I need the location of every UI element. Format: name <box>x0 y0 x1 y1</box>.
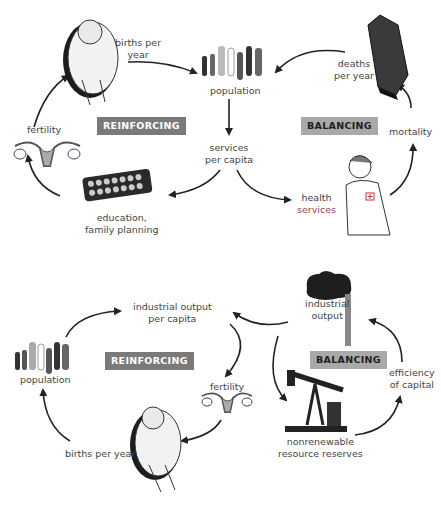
deaths-line1: deaths <box>334 58 374 70</box>
node-industrial-output: industrial output <box>305 298 349 322</box>
node-nonrenewable-resource-reserves: nonrenewable resource reserves <box>278 436 363 460</box>
io-line1: industrial <box>305 298 349 310</box>
uterus-icon <box>202 393 252 412</box>
iopc-line1: industrial output <box>133 301 212 313</box>
resources-line2: resource reserves <box>278 448 363 460</box>
education-line2: family planning <box>85 224 159 236</box>
node-education-family-planning: education, family planning <box>85 212 159 236</box>
efficiency-line2: of capital <box>389 379 435 391</box>
balancing-badge: BALANCING <box>310 351 387 369</box>
oil-pump-icon <box>285 370 347 432</box>
node-population: population <box>210 85 261 97</box>
births-line1: births per <box>115 37 161 49</box>
resources-line1: nonrenewable <box>278 436 363 448</box>
node-deaths-per-year: deaths per year <box>334 58 374 82</box>
education-line1: education, <box>85 212 159 224</box>
node-births-per-year: births per year <box>115 37 161 61</box>
reinforcing-badge: REINFORCING <box>105 352 194 370</box>
io-line2: output <box>305 310 349 322</box>
coffin-icon <box>368 15 408 100</box>
node-fertility: fertility <box>210 381 244 393</box>
reinforcing-badge: REINFORCING <box>97 117 186 135</box>
doctor-icon <box>346 155 390 235</box>
services-line1: services <box>205 142 253 154</box>
node-services-per-capita: services per capita <box>205 142 253 166</box>
iopc-line2: per capita <box>133 313 212 325</box>
node-industrial-output-per-capita: industrial output per capita <box>133 301 212 325</box>
births-line2: year <box>115 49 161 61</box>
population-icon <box>15 342 69 374</box>
health-line2: services <box>297 204 336 216</box>
node-health-services: health services <box>297 192 336 216</box>
services-line2: per capita <box>205 154 253 166</box>
balancing-badge: BALANCING <box>301 117 378 135</box>
efficiency-line1: efficiency <box>389 367 435 379</box>
node-population: population <box>20 374 71 386</box>
illustrations-layer <box>0 0 441 507</box>
baby-icon <box>63 20 118 105</box>
node-fertility: fertility <box>27 124 61 136</box>
baby-icon <box>130 407 181 492</box>
health-line1: health <box>297 192 336 204</box>
node-mortality: mortality <box>389 126 432 138</box>
pill-pack-icon <box>82 169 153 202</box>
uterus-icon <box>14 142 80 166</box>
deaths-line2: per year <box>334 70 374 82</box>
node-efficiency-of-capital: efficiency of capital <box>389 367 435 391</box>
population-icon <box>202 46 262 80</box>
node-births-per-year: births per year <box>65 448 135 460</box>
